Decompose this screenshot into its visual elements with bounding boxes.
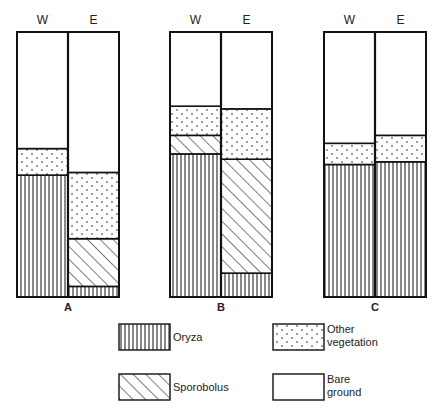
segment-bare <box>17 32 68 149</box>
legend-item-other: Othervegetation <box>273 323 378 350</box>
legend-item-bare: Bareground <box>273 373 361 400</box>
legend-label: ground <box>327 386 361 398</box>
segment-other <box>221 109 272 159</box>
panel-label: C <box>371 301 379 313</box>
legend-swatch <box>273 324 324 350</box>
legend-label: vegetation <box>327 336 378 348</box>
segment-other <box>17 149 68 176</box>
column-label: E <box>396 13 404 27</box>
panel-a: WEA <box>17 13 119 313</box>
segment-other <box>375 135 426 162</box>
column-label: E <box>89 13 97 27</box>
legend-label: Other <box>327 323 355 335</box>
panel-b: WEB <box>170 13 272 313</box>
bar-a-w <box>17 32 68 297</box>
segment-sporobolus <box>221 159 272 273</box>
segment-bare <box>170 32 221 106</box>
segment-bare <box>68 32 119 172</box>
segment-oryza <box>324 165 375 298</box>
column-label: E <box>242 13 250 27</box>
segment-oryza <box>375 162 426 297</box>
column-label: W <box>37 13 49 27</box>
segment-other <box>324 143 375 164</box>
column-label: W <box>190 13 202 27</box>
panel-label: B <box>217 301 225 313</box>
segment-other <box>170 106 221 135</box>
segment-bare <box>375 32 426 135</box>
legend-swatch <box>273 374 324 400</box>
segment-oryza <box>68 286 119 297</box>
segment-sporobolus <box>68 239 119 287</box>
segment-bare <box>324 32 375 143</box>
panel-c: WEC <box>324 13 426 313</box>
segment-oryza <box>17 175 68 297</box>
column-label: W <box>344 13 356 27</box>
segment-bare <box>221 32 272 109</box>
segment-oryza <box>221 273 272 297</box>
panel-label: A <box>64 301 72 313</box>
legend-item-sporobolus: Sporobolus <box>119 374 229 400</box>
bar-a-e <box>68 32 119 297</box>
legend-label: Sporobolus <box>173 381 229 393</box>
bar-c-e <box>375 32 426 297</box>
legend-label: Oryza <box>173 331 203 343</box>
segment-other <box>68 172 119 238</box>
legend-swatch <box>119 324 170 350</box>
segment-oryza <box>170 154 221 297</box>
bar-b-e <box>221 32 272 297</box>
legend-label: Bare <box>327 373 350 385</box>
bar-c-w <box>324 32 375 297</box>
segment-sporobolus <box>170 135 221 154</box>
legend-swatch <box>119 374 170 400</box>
stacked-bar-figure: WEAWEBWEC OryzaSporobolusOthervegetation… <box>0 0 440 418</box>
legend-item-oryza: Oryza <box>119 324 203 350</box>
bar-b-w <box>170 32 221 297</box>
legend: OryzaSporobolusOthervegetationBareground <box>119 323 378 400</box>
panels: WEAWEBWEC <box>17 13 426 313</box>
